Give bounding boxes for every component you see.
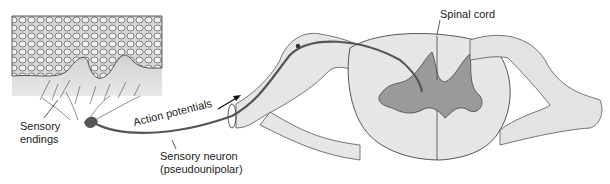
label-sensory-neuron-1: Sensory neuron	[160, 150, 238, 163]
diagram-canvas	[0, 0, 610, 184]
neuron-cell-body	[84, 117, 98, 128]
ganglion-cell-body	[296, 44, 300, 48]
skin-tissue	[12, 16, 162, 128]
label-sensory-endings-2: endings	[20, 133, 59, 146]
label-sensory-endings-1: Sensory	[20, 120, 60, 133]
label-spinal-cord: Spinal cord	[440, 8, 495, 21]
label-sensory-neuron-2: (pseudounipolar)	[160, 163, 243, 176]
